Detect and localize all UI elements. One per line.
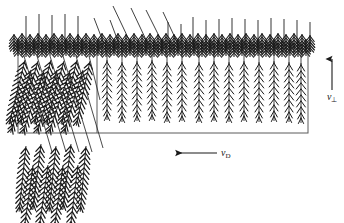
figure-root: v⊥ vD [0, 0, 344, 223]
overflow-plumes-below-box [13, 143, 91, 223]
vd-label: vD [221, 148, 231, 160]
vperp-subscript: ⊥ [331, 96, 337, 104]
vperp-label: v⊥ [327, 92, 337, 104]
vd-subscript: D [225, 152, 230, 160]
hanging-plumes-right [102, 60, 306, 124]
top-dense-band-secondary [13, 39, 311, 57]
figure-canvas [0, 0, 344, 223]
